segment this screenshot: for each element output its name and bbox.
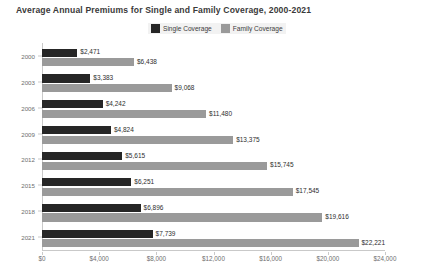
x-axis-labels: $0$4,000$8,000$12,000$16,000$20,000$24,0… xyxy=(42,252,385,268)
x-axis-tick-label: $8,000 xyxy=(147,255,166,262)
bar-rect[interactable] xyxy=(42,213,322,221)
bar-value-label: $4,824 xyxy=(114,127,134,134)
bar-item[interactable]: $11,480 xyxy=(42,110,385,118)
bar-rect[interactable] xyxy=(42,49,77,57)
bar-rect[interactable] xyxy=(42,162,267,170)
bar-value-label: $17,545 xyxy=(296,188,320,195)
bar-rect[interactable] xyxy=(42,152,122,160)
bar-value-label: $7,739 xyxy=(156,231,176,238)
bar-value-label: $11,480 xyxy=(209,111,232,118)
bar-item[interactable]: $6,251 xyxy=(42,178,385,186)
bar-item[interactable]: $17,545 xyxy=(42,188,385,196)
bar-group: $5,615$15,745 xyxy=(42,147,385,173)
bar-group: $6,251$17,545 xyxy=(42,172,385,198)
bar-value-label: $9,068 xyxy=(175,85,195,92)
bar-rect[interactable] xyxy=(42,58,134,66)
bar-group: $7,739$22,221 xyxy=(42,224,385,250)
y-axis-tick-label: 2000 xyxy=(21,52,35,59)
bar-item[interactable]: $3,383 xyxy=(42,74,385,82)
legend-swatch-single-coverage xyxy=(151,24,160,33)
y-axis-tick-label: 2015 xyxy=(21,182,35,189)
bar-rect[interactable] xyxy=(42,110,206,118)
bar-value-label: $4,242 xyxy=(106,101,126,108)
bar-group: $6,896$19,616 xyxy=(42,198,385,224)
y-axis-tick-label: 2003 xyxy=(21,78,35,85)
y-axis-tick-label: 2009 xyxy=(21,130,35,137)
bar-value-label: $3,383 xyxy=(93,75,113,82)
bar-value-label: $6,438 xyxy=(137,59,157,66)
x-axis-tick-label: $20,000 xyxy=(316,255,339,262)
bar-rect[interactable] xyxy=(42,84,172,92)
legend-item-single-coverage: Single Coverage xyxy=(151,24,212,33)
legend-label-family-coverage: Family Coverage xyxy=(233,25,283,32)
chart-legend: Single Coverage Family Coverage xyxy=(148,23,286,34)
bar-value-label: $15,745 xyxy=(270,162,294,169)
bar-rect[interactable] xyxy=(42,126,111,134)
y-axis-tick-label: 2021 xyxy=(21,234,35,241)
bar-item[interactable]: $6,896 xyxy=(42,204,385,212)
bar-value-label: $2,471 xyxy=(80,49,100,56)
x-axis-tick-label: $0 xyxy=(38,255,45,262)
bar-rect[interactable] xyxy=(42,136,233,144)
y-axis-tick-label: 2018 xyxy=(21,208,35,215)
x-axis-tick-label: $4,000 xyxy=(90,255,109,262)
bar-group: $3,383$9,068 xyxy=(42,69,385,95)
bar-group: $4,824$13,375 xyxy=(42,121,385,147)
bar-group: $4,242$11,480 xyxy=(42,95,385,121)
y-axis-tick-label: 2006 xyxy=(21,104,35,111)
chart-container: Average Annual Premiums for Single and F… xyxy=(0,0,421,275)
bar-value-label: $13,375 xyxy=(236,137,260,144)
bar-rect[interactable] xyxy=(42,204,141,212)
y-axis-tick-label: 2012 xyxy=(21,156,35,163)
bar-value-label: $5,615 xyxy=(125,153,145,160)
bar-groups: $2,471$6,438$3,383$9,068$4,242$11,480$4,… xyxy=(42,43,385,250)
x-axis-tick-label: $24,000 xyxy=(374,255,397,262)
bar-value-label: $6,251 xyxy=(134,179,154,186)
bar-rect[interactable] xyxy=(42,178,131,186)
bar-item[interactable]: $5,615 xyxy=(42,152,385,160)
bar-rect[interactable] xyxy=(42,100,103,108)
bar-value-label: $19,616 xyxy=(325,214,349,221)
bar-value-label: $22,221 xyxy=(362,240,386,247)
x-axis-tick-label: $12,000 xyxy=(202,255,225,262)
bar-item[interactable]: $7,739 xyxy=(42,230,385,238)
bar-item[interactable]: $22,221 xyxy=(42,239,385,247)
bar-group: $2,471$6,438 xyxy=(42,43,385,69)
y-axis-labels: 20002003200620092012201520182021 xyxy=(0,43,42,250)
bar-rect[interactable] xyxy=(42,74,90,82)
bar-rect[interactable] xyxy=(42,188,293,196)
bar-rect[interactable] xyxy=(42,239,359,247)
bar-item[interactable]: $4,824 xyxy=(42,126,385,134)
bar-value-label: $6,896 xyxy=(144,205,164,212)
legend-item-family-coverage: Family Coverage xyxy=(221,24,283,33)
bar-item[interactable]: $9,068 xyxy=(42,84,385,92)
bar-item[interactable]: $15,745 xyxy=(42,162,385,170)
bar-item[interactable]: $4,242 xyxy=(42,100,385,108)
chart-title: Average Annual Premiums for Single and F… xyxy=(16,5,311,15)
legend-swatch-family-coverage xyxy=(221,24,230,33)
bar-item[interactable]: $6,438 xyxy=(42,58,385,66)
bar-item[interactable]: $2,471 xyxy=(42,49,385,57)
x-axis-tick-label: $16,000 xyxy=(259,255,282,262)
legend-label-single-coverage: Single Coverage xyxy=(163,25,212,32)
bar-item[interactable]: $13,375 xyxy=(42,136,385,144)
bar-rect[interactable] xyxy=(42,230,153,238)
bar-item[interactable]: $19,616 xyxy=(42,213,385,221)
